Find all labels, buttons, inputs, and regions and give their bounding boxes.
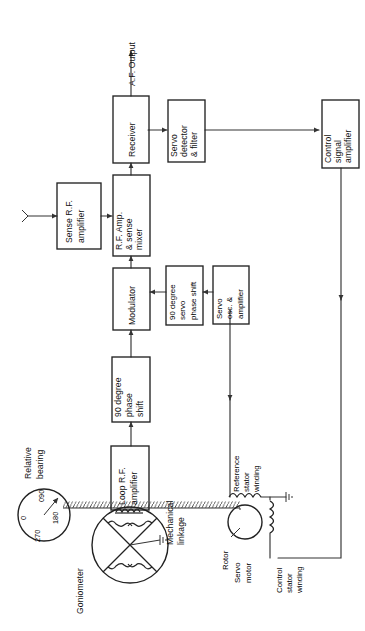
modulator-line1: Modulator: [127, 286, 137, 325]
ref-stator-line2: stator: [242, 472, 251, 492]
ctrl-stator-line2: stator: [285, 573, 294, 593]
label-servo-detector-filter: Servo detector & filter: [169, 125, 199, 157]
ref-stator-line3: winding: [252, 465, 261, 493]
servo-det-line1: Servo: [169, 134, 179, 157]
label-loop-rf-amplifier: Loop R.F. amplifier: [117, 467, 139, 505]
rotor-text: Rotor: [221, 550, 230, 570]
label-servo-motor: Servo motor: [233, 562, 253, 583]
label-servo-osc-amplifier: Servo osc. & amplifier: [215, 289, 245, 319]
relative-bearing-line2: bearing: [35, 450, 45, 479]
label-modulator: Modulator: [127, 286, 137, 325]
servo-det-line2: detector: [179, 125, 189, 157]
goniometer-text: Goniometer: [75, 568, 85, 614]
mech-linkage-line1: Mechanical: [165, 501, 175, 545]
label-goniometer: Goniometer: [75, 568, 85, 614]
loop-amp-line1: Loop R.F.: [117, 467, 127, 505]
servo-phase-line3: phase shift: [189, 281, 198, 320]
label-control-stator-winding: Control stator winding: [275, 566, 304, 594]
dial-tick-270: 270: [33, 530, 42, 542]
servo-osc-line2: osc. &: [225, 296, 234, 319]
ctrl-stator-line3: winding: [295, 566, 304, 594]
phase-shift-line1: 90 degree: [113, 377, 123, 417]
receiver-line1: Receiver: [127, 122, 137, 157]
antenna-icon: [22, 210, 28, 222]
diagram-canvas: A.F. Output Sense R.F. amplifier R.F. Am…: [0, 0, 365, 631]
sense-amp-line2: amplifier: [76, 210, 86, 243]
label-90-degree-phase-shift: 90 degree phase shift: [113, 377, 145, 417]
label-90-degree-servo-phase-shift: 90 degree servo phase shift: [168, 281, 198, 320]
loop-amp-line2: amplifier: [129, 472, 139, 505]
phase-shift-line2: phase: [124, 393, 134, 417]
phase-shift-line3: shift: [135, 400, 145, 417]
label-reference-stator-winding: Reference stator winding: [232, 455, 261, 493]
rf-mixer-line1: R.F. Amp.: [114, 212, 124, 250]
label-sense-rf-amplifier: Sense R.F. amplifier: [64, 200, 86, 243]
ref-stator-line1: Reference: [232, 455, 241, 492]
label-relative-bearing: Relative bearing: [23, 447, 45, 479]
ctrl-amp-line2: signal: [333, 140, 343, 163]
label-rotor: Rotor: [221, 550, 230, 570]
goniometer-symbol: [92, 507, 168, 583]
servo-osc-line1: Servo: [215, 298, 224, 319]
dial-tick-0: 0: [19, 516, 28, 520]
sense-amp-line1: Sense R.F.: [64, 200, 74, 243]
ctrl-stator-line1: Control: [275, 567, 284, 593]
dial-tick-180: 180: [51, 512, 60, 524]
ctrl-amp-line1: Control: [323, 135, 333, 163]
servo-det-line3: & filter: [189, 132, 199, 157]
rf-mixer-line3: mixer: [134, 228, 144, 250]
label-receiver: Receiver: [127, 122, 137, 157]
block-diagram-svg: A.F. Output Sense R.F. amplifier R.F. Am…: [0, 0, 365, 631]
mech-linkage-line2: linkage: [176, 517, 186, 545]
dial-tick-090: 090: [37, 490, 46, 502]
ground-icon-motor: [286, 492, 292, 502]
ctrl-amp-line3: amplifier: [343, 130, 353, 163]
mechanical-linkage-hatch-icon: [63, 502, 240, 509]
servo-motor-line1: Servo: [233, 562, 242, 583]
wire-control-amp-to-control-stator: [278, 168, 341, 558]
relative-bearing-line1: Relative: [23, 447, 33, 479]
label-af-output: A.F. Output: [127, 41, 137, 86]
servo-phase-line2: servo: [178, 300, 187, 320]
servo-motor-line2: motor: [244, 562, 253, 583]
rf-mixer-line2: & sense: [124, 218, 134, 250]
label-rf-amp-sense-mixer: R.F. Amp. & sense mixer: [114, 212, 144, 250]
label-control-signal-amplifier: Control signal amplifier: [323, 130, 353, 163]
af-output-text: A.F. Output: [127, 41, 137, 86]
servo-phase-line1: 90 degree: [168, 284, 177, 320]
servo-osc-line3: amplifier: [236, 289, 245, 319]
